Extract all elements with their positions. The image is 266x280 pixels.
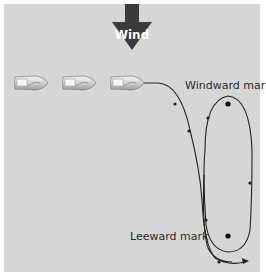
wind-label: Wind <box>114 28 150 42</box>
leeward-mark-label: Leeward mark <box>130 230 208 243</box>
boat-icon <box>15 76 49 90</box>
windward-mark-label: Windward mark <box>185 79 266 92</box>
boat-icon <box>111 76 145 90</box>
boat-icon <box>63 76 97 90</box>
leeward-mark <box>225 233 230 238</box>
windward-mark <box>225 101 230 106</box>
wind-arrow-icon <box>112 4 152 50</box>
